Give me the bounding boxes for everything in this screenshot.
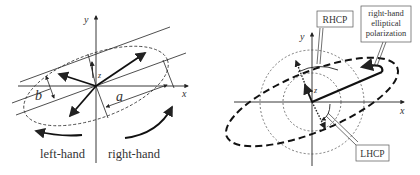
short-field-vector [305, 85, 312, 102]
y-axis-label: y [299, 31, 305, 42]
elliptical-label-line3: polarization [366, 28, 407, 38]
elliptical-rotation-arrow [362, 65, 382, 72]
tangent-line-bottom [12, 89, 50, 103]
field-vector-1 [96, 53, 145, 86]
x-axis-label: x [181, 88, 187, 99]
right-panel: y x z RHCP right-hand elliptical po [215, 6, 411, 166]
rhcp-label: RHCP [323, 15, 348, 25]
lhcp-leader [326, 116, 356, 145]
long-field-vector [312, 72, 382, 102]
dotted-vector-lower [312, 102, 325, 128]
left-hand-rotation-arrow [36, 131, 82, 136]
b-dimension [46, 76, 54, 98]
semi-minor-label: b [35, 88, 42, 103]
field-vector-2 [59, 74, 96, 86]
x-axis-label: x [399, 105, 405, 116]
lhcp-label: LHCP [360, 149, 384, 159]
tangent-line-top [20, 27, 170, 82]
left-panel: y x z a b left-hand right-hand [12, 14, 188, 163]
elliptical-label-line1: right-hand [368, 8, 404, 18]
right-hand-label: right-hand [108, 147, 161, 161]
lhcp-arc [322, 104, 330, 120]
lhcp-leader-2 [328, 113, 358, 142]
rhcp-leader-2 [320, 28, 323, 64]
right-hand-rotation-arrow [125, 107, 172, 138]
major-axis-line [16, 53, 186, 115]
minor-small-arrow [92, 62, 93, 78]
a-perp-right [163, 60, 174, 88]
z-axis-label: z [97, 71, 102, 80]
semi-major-label: a [116, 89, 123, 104]
left-hand-label: left-hand [40, 147, 86, 161]
a-perp-left [96, 86, 108, 118]
y-axis-label: y [83, 14, 89, 25]
polarization-diagram: y x z a b left-hand right-hand [0, 0, 420, 175]
z-axis-label: z [313, 86, 318, 95]
rhcp-leader [317, 28, 320, 64]
elliptical-label-line2: elliptical [371, 18, 401, 28]
